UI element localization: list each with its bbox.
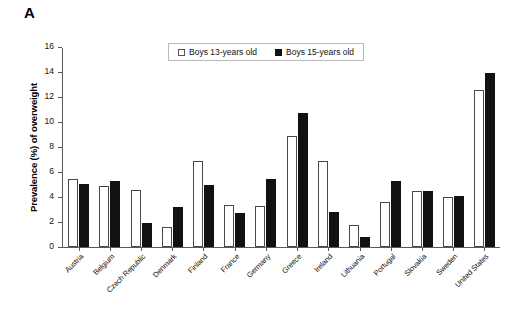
bar-group bbox=[282, 48, 313, 247]
x-axis-category-label: Austria bbox=[63, 252, 85, 274]
y-tick: 14 bbox=[58, 72, 62, 73]
x-axis-category-label: Sweden bbox=[434, 252, 459, 277]
filled-square-icon bbox=[275, 49, 282, 56]
bar-group bbox=[157, 48, 188, 247]
x-label-slot: Portugal bbox=[375, 250, 406, 320]
x-label-slot: Germany bbox=[250, 250, 281, 320]
bar-15y bbox=[329, 212, 339, 247]
x-label-slot: Sweden bbox=[438, 250, 469, 320]
x-label-slot: France bbox=[219, 250, 250, 320]
bar-15y bbox=[79, 184, 89, 247]
x-label-slot: Finland bbox=[188, 250, 219, 320]
bar-group bbox=[344, 48, 375, 247]
x-axis-category-label: Greece bbox=[280, 252, 303, 275]
y-tick-label: 10 bbox=[45, 116, 54, 126]
bar-15y bbox=[266, 179, 276, 247]
y-tick: 4 bbox=[58, 197, 62, 198]
x-axis-category-label: Belgium bbox=[91, 252, 116, 277]
bar-group bbox=[250, 48, 281, 247]
bar-group bbox=[406, 48, 437, 247]
bar-13y bbox=[380, 202, 390, 247]
x-axis-category-label: Finland bbox=[187, 252, 210, 275]
x-label-slot: Greece bbox=[282, 250, 313, 320]
y-tick: 16 bbox=[58, 47, 62, 48]
x-label-slot: Ireland bbox=[313, 250, 344, 320]
legend-label: Boys 15-years old bbox=[286, 47, 354, 57]
y-tick-label: 2 bbox=[49, 216, 54, 226]
y-tick-label: 8 bbox=[49, 141, 54, 151]
bar-15y bbox=[423, 191, 433, 247]
y-tick: 8 bbox=[58, 147, 62, 148]
x-axis-category-label: Portugal bbox=[372, 252, 398, 278]
bar-group bbox=[469, 48, 500, 247]
bar-13y bbox=[443, 197, 453, 247]
bar-13y bbox=[224, 205, 234, 247]
y-axis-title: Prevalence (%) of overweight bbox=[28, 43, 39, 253]
bar-group bbox=[188, 48, 219, 247]
bar-13y bbox=[412, 191, 422, 247]
x-label-slot: Czech Republic bbox=[125, 250, 156, 320]
bar-13y bbox=[287, 136, 297, 247]
y-tick-label: 6 bbox=[49, 166, 54, 176]
bar-15y bbox=[391, 181, 401, 247]
x-label-slot: Austria bbox=[63, 250, 94, 320]
bar-groups bbox=[63, 48, 500, 247]
legend-entry: Boys 13-years old bbox=[178, 47, 257, 57]
bar-15y bbox=[204, 185, 214, 247]
bar-15y bbox=[298, 113, 308, 247]
bar-13y bbox=[68, 179, 78, 247]
bar-13y bbox=[474, 90, 484, 247]
bar-13y bbox=[131, 190, 141, 247]
bar-13y bbox=[99, 186, 109, 247]
x-label-slot: Slovakia bbox=[406, 250, 437, 320]
bar-13y bbox=[349, 225, 359, 247]
bar-group bbox=[438, 48, 469, 247]
legend: Boys 13-years oldBoys 15-years old bbox=[168, 43, 364, 61]
bar-15y bbox=[454, 196, 464, 247]
x-axis-category-label: Ireland bbox=[313, 252, 335, 274]
y-tick-label: 16 bbox=[45, 41, 54, 51]
legend-entry: Boys 15-years old bbox=[275, 47, 354, 57]
bar-group bbox=[313, 48, 344, 247]
y-tick: 6 bbox=[58, 172, 62, 173]
y-tick-label: 12 bbox=[45, 91, 54, 101]
y-tick: 2 bbox=[58, 222, 62, 223]
x-label-slot: United States bbox=[469, 250, 500, 320]
bar-13y bbox=[318, 161, 328, 247]
bar-15y bbox=[173, 207, 183, 247]
bar-15y bbox=[235, 213, 245, 247]
y-tick-label: 4 bbox=[49, 191, 54, 201]
open-square-icon bbox=[178, 49, 185, 56]
bar-group bbox=[219, 48, 250, 247]
bar-15y bbox=[142, 223, 152, 247]
y-tick: 12 bbox=[58, 97, 62, 98]
x-label-slot: Lithuania bbox=[344, 250, 375, 320]
y-tick: 10 bbox=[58, 122, 62, 123]
bar-group bbox=[375, 48, 406, 247]
y-tick: 0 bbox=[58, 247, 62, 248]
figure-panel-a: A Prevalence (%) of overweight 024681012… bbox=[0, 0, 511, 323]
x-axis-labels: AustriaBelgiumCzech RepublicDenmarkFinla… bbox=[63, 250, 500, 320]
bar-15y bbox=[485, 73, 495, 247]
bar-15y bbox=[360, 237, 370, 247]
legend-label: Boys 13-years old bbox=[189, 47, 257, 57]
x-axis-line bbox=[62, 247, 500, 248]
y-tick-label: 0 bbox=[49, 241, 54, 251]
bar-15y bbox=[110, 181, 120, 247]
panel-label: A bbox=[24, 5, 35, 20]
bar-13y bbox=[162, 227, 172, 247]
bar-13y bbox=[255, 206, 265, 247]
bar-group bbox=[125, 48, 156, 247]
bar-13y bbox=[193, 161, 203, 247]
plot-area: 0246810121416 bbox=[62, 48, 500, 248]
bar-group bbox=[94, 48, 125, 247]
x-label-slot: Denmark bbox=[157, 250, 188, 320]
x-axis-category-label: France bbox=[219, 252, 241, 274]
y-tick-label: 14 bbox=[45, 66, 54, 76]
x-axis-category-label: Slovakia bbox=[403, 252, 429, 278]
bar-group bbox=[63, 48, 94, 247]
